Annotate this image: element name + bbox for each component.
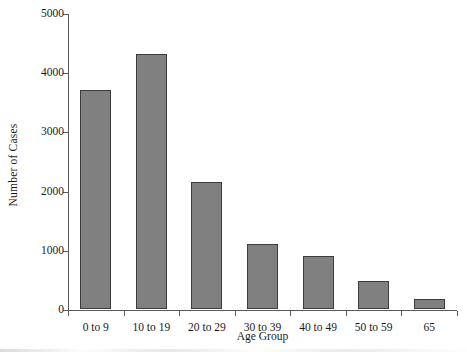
bar-chart-figure: Number of Cases 010002000300040005000 0 … bbox=[0, 0, 467, 352]
bar bbox=[136, 54, 167, 309]
bar bbox=[414, 299, 445, 309]
y-axis-line bbox=[68, 14, 69, 311]
bar bbox=[303, 256, 334, 309]
y-axis-tick-label: 1000 bbox=[41, 243, 64, 257]
bar bbox=[358, 281, 389, 309]
y-axis-tick-label: 2000 bbox=[41, 184, 64, 198]
x-axis-tick-mark bbox=[235, 311, 236, 316]
x-axis-tick-mark bbox=[68, 311, 69, 316]
x-axis-tick-mark bbox=[124, 311, 125, 316]
y-axis-tick-label: 4000 bbox=[41, 65, 64, 79]
x-axis-tick-mark bbox=[179, 311, 180, 316]
y-axis-title: Number of Cases bbox=[0, 0, 26, 330]
y-axis-tick-label: 5000 bbox=[41, 6, 64, 20]
x-axis-title: Age Group bbox=[68, 330, 457, 342]
y-axis-title-label: Number of Cases bbox=[7, 124, 19, 207]
bar bbox=[247, 244, 278, 309]
bar bbox=[80, 90, 111, 309]
y-axis-tick-label: 3000 bbox=[41, 124, 64, 138]
y-axis-tick-label: 0 bbox=[58, 302, 64, 316]
bar bbox=[191, 182, 222, 309]
x-axis-tick-mark bbox=[290, 311, 291, 316]
x-axis-tick-mark bbox=[457, 311, 458, 316]
x-axis-tick-mark bbox=[401, 311, 402, 316]
plot-area: 010002000300040005000 0 to 910 to 1920 t… bbox=[68, 14, 457, 310]
x-axis-tick-mark bbox=[346, 311, 347, 316]
x-axis-line bbox=[68, 310, 457, 311]
